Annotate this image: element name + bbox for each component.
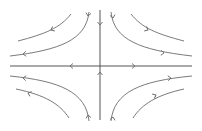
- tr-far-arrow-icon: [144, 26, 149, 32]
- phase-portrait-diagram: [0, 0, 202, 131]
- trajectory-top-left-near: [10, 12, 89, 56]
- trajectory-top-left-far: [18, 14, 71, 41]
- trajectory-bottom-right-near: [111, 76, 192, 121]
- phase-portrait-canvas: [0, 0, 202, 131]
- trajectory-bottom-right-far: [133, 89, 184, 118]
- axes: [10, 10, 192, 120]
- br-near-right-arrow-icon: [168, 76, 171, 81]
- trajectory-top-right-far: [131, 14, 184, 41]
- trajectory-bottom-left-far: [16, 89, 69, 118]
- tr-near-top-arrow-icon: [110, 15, 115, 19]
- trajectory-bottom-left-near: [10, 76, 89, 121]
- trajectory-top-right-near: [111, 12, 192, 56]
